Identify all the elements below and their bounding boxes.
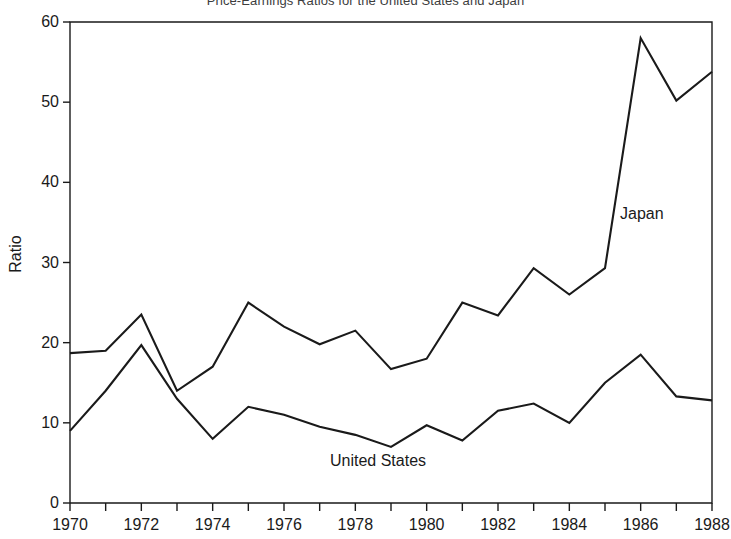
x-tick-label: 1986 [611, 517, 671, 533]
x-tick-label: 1980 [397, 517, 457, 533]
x-tick-label: 1984 [539, 517, 599, 533]
series-annotation-united-states: United States [330, 452, 426, 470]
y-tick-label: 30 [25, 255, 59, 271]
y-tick-label: 0 [25, 495, 59, 511]
y-tick-label: 40 [25, 174, 59, 190]
x-tick-label: 1972 [111, 517, 171, 533]
x-tick-label: 1970 [40, 517, 100, 533]
series-line-united-states [70, 345, 712, 447]
y-tick-label: 10 [25, 415, 59, 431]
x-tick-label: 1988 [682, 517, 731, 533]
y-tick-label: 50 [25, 94, 59, 110]
x-tick-label: 1978 [325, 517, 385, 533]
tick-marks [63, 22, 712, 511]
series-line-japan [70, 38, 712, 391]
y-axis-label: Ratio [7, 214, 25, 294]
x-tick-label: 1976 [254, 517, 314, 533]
series-annotation-japan: Japan [620, 205, 664, 223]
series-lines [70, 38, 712, 447]
x-tick-label: 1974 [183, 517, 243, 533]
y-tick-label: 20 [25, 335, 59, 351]
y-tick-label: 60 [25, 14, 59, 30]
chart-figure: Price-Earnings Ratios for the United Sta… [0, 0, 731, 539]
x-tick-label: 1982 [468, 517, 528, 533]
axes-frame [70, 22, 712, 503]
